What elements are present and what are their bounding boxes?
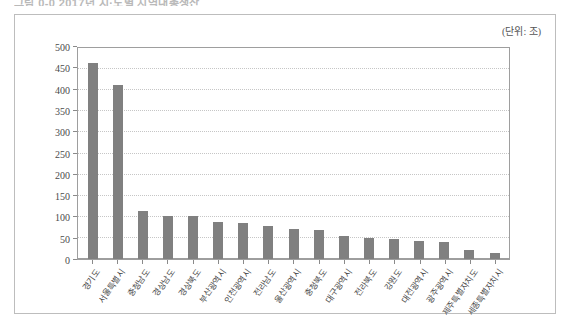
bar[interactable] [138, 211, 148, 259]
bar-slot [356, 48, 381, 259]
bar-slot [105, 48, 130, 259]
bar[interactable] [490, 253, 500, 259]
bar[interactable] [314, 230, 324, 259]
bar-slot [457, 48, 482, 259]
x-label-slot: 전라북도 [357, 260, 382, 330]
bar-slot [231, 48, 256, 259]
y-axis-tick [73, 89, 77, 90]
y-axis-tick [73, 216, 77, 217]
y-axis-label: 200 [55, 169, 70, 180]
bar[interactable] [263, 226, 273, 259]
x-label-slot: 울산광역시 [281, 260, 306, 330]
x-label-slot: 충청남도 [129, 260, 154, 330]
y-axis-label: 300 [55, 127, 70, 138]
x-label-slot: 경상남도 [155, 260, 180, 330]
bar-slot [306, 48, 331, 259]
x-axis-category-label: 경기도 [78, 266, 101, 292]
y-axis-label: 50 [60, 233, 70, 244]
bar-slot [181, 48, 206, 259]
y-axis-tick [73, 67, 77, 68]
y-axis-label: 0 [65, 255, 70, 266]
bar[interactable] [213, 222, 223, 259]
figure-frame: (단위: 조) 050100150200250300350400450500 경… [14, 14, 556, 314]
bar[interactable] [464, 250, 474, 259]
y-axis-label: 250 [55, 148, 70, 159]
x-label-slot: 인천광역시 [230, 260, 255, 330]
bar[interactable] [339, 236, 349, 259]
bar-series [78, 48, 509, 259]
bar-slot [382, 48, 407, 259]
bar[interactable] [364, 238, 374, 259]
y-axis-tick [73, 46, 77, 47]
y-axis-label: 450 [55, 63, 70, 74]
bar-slot [331, 48, 356, 259]
bar-slot [130, 48, 155, 259]
bar-slot [407, 48, 432, 259]
bar[interactable] [88, 63, 98, 259]
y-axis-tick [73, 238, 77, 239]
bar-slot [155, 48, 180, 259]
plot-area [77, 47, 510, 260]
y-axis-label: 500 [55, 42, 70, 53]
bar[interactable] [439, 242, 449, 259]
bar[interactable] [389, 239, 399, 259]
bar[interactable] [188, 216, 198, 259]
y-axis-tick [73, 174, 77, 175]
x-label-slot: 서울특별시 [104, 260, 129, 330]
x-label-slot: 세종특별자치시 [483, 260, 508, 330]
bar[interactable] [238, 223, 248, 259]
figure-caption: 그림 0-0 2017년 시·도별 지역내총생산 [14, 0, 314, 6]
x-axis-category-label: 강원도 [381, 266, 404, 292]
bar-slot [80, 48, 105, 259]
x-axis-labels: 경기도서울특별시충청남도경상남도경상북도부산광역시인천광역시전라남도울산광역시충… [77, 260, 510, 330]
bar-slot [206, 48, 231, 259]
bar[interactable] [163, 216, 173, 259]
y-axis-tick [73, 110, 77, 111]
y-axis-label: 400 [55, 84, 70, 95]
y-axis-label: 150 [55, 191, 70, 202]
y-axis-label: 350 [55, 105, 70, 116]
bar-slot [482, 48, 507, 259]
x-label-slot: 대구광역시 [331, 260, 356, 330]
unit-label: (단위: 조) [502, 23, 541, 38]
bar-chart: 050100150200250300350400450500 경기도서울특별시충… [77, 47, 510, 260]
y-axis-tick [73, 153, 77, 154]
bar-slot [281, 48, 306, 259]
y-axis-tick [73, 131, 77, 132]
bar-slot [432, 48, 457, 259]
y-axis-tick [73, 195, 77, 196]
bar[interactable] [113, 85, 123, 259]
y-axis-label: 100 [55, 212, 70, 223]
bar[interactable] [414, 241, 424, 259]
bar[interactable] [289, 229, 299, 259]
bar-slot [256, 48, 281, 259]
